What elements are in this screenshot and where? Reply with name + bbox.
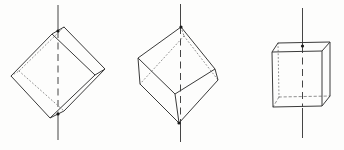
cube-rotation-axes-diagram: [0, 0, 344, 150]
diagram-canvas: [0, 0, 344, 150]
figure-cube-on-edge: [11, 5, 105, 140]
figure-cube-on-vertex: [138, 4, 218, 142]
figure-upright-cube: [272, 8, 330, 138]
